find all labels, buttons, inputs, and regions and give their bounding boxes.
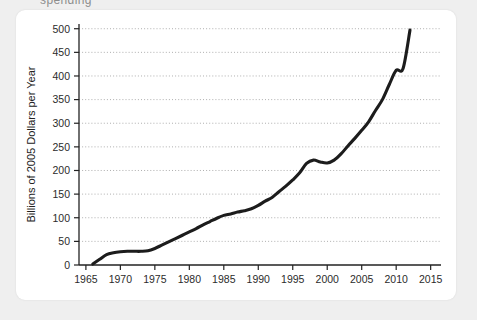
y-tick-label: 250	[52, 141, 70, 153]
x-tick-label: 1965	[74, 273, 98, 285]
y-tick-label: 300	[52, 117, 70, 129]
x-tick-label: 1985	[212, 273, 236, 285]
x-tick-label: 1995	[281, 273, 305, 285]
y-axis-ticks-group: 050100150200250300350400450500	[52, 23, 79, 271]
x-tick-label: 2015	[419, 273, 443, 285]
x-tick-label: 2000	[316, 273, 340, 285]
x-tick-label: 1970	[109, 273, 133, 285]
y-tick-label: 350	[52, 93, 70, 105]
y-tick-label: 400	[52, 70, 70, 82]
y-tick-label: 450	[52, 46, 70, 58]
cut-off-header-text: spending	[40, 0, 92, 7]
chart-card: 050100150200250300350400450500 196519701…	[16, 10, 456, 300]
y-tick-label: 150	[52, 188, 70, 200]
y-tick-label: 500	[52, 23, 70, 35]
y-tick-label: 0	[64, 259, 70, 271]
data-series-line	[93, 30, 410, 264]
chart-canvas: 050100150200250300350400450500 196519701…	[16, 10, 456, 300]
gridlines-group	[79, 29, 441, 242]
y-tick-label: 100	[52, 212, 70, 224]
x-tick-label: 2005	[350, 273, 374, 285]
x-axis-title: Year	[249, 299, 272, 300]
x-tick-label: 1975	[143, 273, 167, 285]
y-tick-label: 200	[52, 164, 70, 176]
x-tick-label: 1980	[178, 273, 202, 285]
y-axis-title: Billions of 2005 Dollars per Year	[25, 66, 37, 222]
x-axis-ticks-group: 1965197019751980198519901995200020052010…	[74, 265, 442, 285]
line-chart: 050100150200250300350400450500 196519701…	[16, 10, 456, 300]
page-root: spending 050100150200250300350400450500 …	[0, 0, 477, 320]
x-tick-label: 1990	[247, 273, 271, 285]
y-tick-label: 50	[58, 235, 70, 247]
x-tick-label: 2010	[385, 273, 409, 285]
